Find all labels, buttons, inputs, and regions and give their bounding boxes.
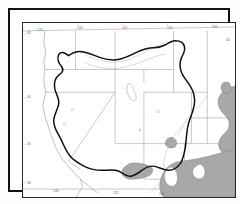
tick-label-bottom-120: 120 [53,190,59,193]
state-label-3: P [139,130,141,134]
tick-label-top-110: 110 [167,27,172,30]
figure-container: 125 120 115 110 105 45 40 35 30 120 115 … [0,0,240,204]
tick-label-top-125: 125 [37,29,43,32]
shaded-range-areas [122,82,235,197]
tick-label-bottom-110: 110 [159,193,164,196]
tick-label-top-105: 105 [212,26,218,29]
shaded-area-upper-east [221,82,231,93]
map-outer-frame: 125 120 115 110 105 45 40 35 30 120 115 … [8,8,230,192]
coastline [43,31,98,197]
tick-label-right-45: 45 [226,39,230,42]
tick-label-top-115: 115 [122,27,127,30]
shaded-area-small-central [165,137,176,148]
tick-label-left-30: 30 [27,182,31,185]
tick-label-left-40: 40 [27,96,31,99]
tick-label-bottom-115: 115 [113,192,118,195]
lakes [127,83,136,101]
map-inner-frame: 125 120 115 110 105 45 40 35 30 120 115 … [22,22,236,198]
tick-label-left-45: 45 [27,32,31,35]
shaded-area-east [218,86,235,157]
shaded-area-southwest [122,163,153,179]
map-canvas [23,23,235,197]
state-label-4: C [63,123,66,127]
tick-label-left-35: 35 [27,143,31,146]
state-label-2: D [157,111,160,115]
tick-label-top-120: 120 [77,27,83,30]
state-label-1: O [71,109,74,113]
